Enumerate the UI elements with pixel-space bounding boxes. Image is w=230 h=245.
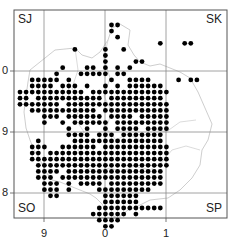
record-dot (127, 206, 132, 211)
record-dot (91, 212, 96, 217)
record-dot (134, 151, 139, 156)
record-dot (127, 151, 132, 156)
grid-lines (14, 10, 227, 218)
record-dot (54, 151, 59, 156)
record-dot (195, 78, 200, 83)
record-dot (146, 206, 151, 211)
record-dot (158, 90, 163, 95)
record-dot (140, 175, 145, 180)
record-dot (152, 181, 157, 186)
record-dot (66, 102, 71, 107)
record-dot (42, 96, 47, 101)
record-dot (48, 169, 53, 174)
record-dot (48, 114, 53, 119)
record-dot (103, 206, 108, 211)
record-dot (127, 114, 132, 119)
record-dot (85, 114, 90, 119)
record-dot (97, 206, 102, 211)
record-dot (66, 169, 71, 174)
record-dot (109, 23, 114, 28)
record-dot (36, 84, 41, 89)
record-dot (66, 163, 71, 168)
record-dot (66, 132, 71, 137)
record-dot (103, 212, 108, 217)
record-dot (30, 151, 35, 156)
record-dot (54, 193, 59, 198)
record-dot (152, 114, 157, 119)
record-dot (127, 187, 132, 192)
record-dot (127, 169, 132, 174)
record-dot (176, 78, 181, 83)
record-dot (115, 23, 120, 28)
record-dot (152, 145, 157, 150)
record-dot (42, 181, 47, 186)
record-dot (103, 145, 108, 150)
record-dot (60, 120, 65, 125)
record-dot (85, 84, 90, 89)
record-dot (134, 145, 139, 150)
record-dot (79, 145, 84, 150)
record-dot (36, 151, 41, 156)
record-dot (146, 163, 151, 168)
record-dot (140, 84, 145, 89)
record-dot (115, 200, 120, 205)
record-dot (146, 114, 151, 119)
record-dot (79, 157, 84, 162)
record-dot (164, 120, 169, 125)
record-dot (109, 163, 114, 168)
square-label-sk: SK (206, 13, 222, 25)
record-dot (121, 145, 126, 150)
record-dot (73, 175, 78, 180)
record-dot (140, 163, 145, 168)
record-dot (152, 120, 157, 125)
record-dot (103, 175, 108, 180)
record-dot (121, 47, 126, 52)
record-dot (30, 157, 35, 162)
record-dot (91, 169, 96, 174)
record-dot (103, 218, 108, 223)
record-dot (66, 181, 71, 186)
record-dot (91, 181, 96, 186)
record-dot (158, 84, 163, 89)
record-dot (103, 59, 108, 64)
record-dot (152, 139, 157, 144)
record-dot (115, 175, 120, 180)
record-dot (127, 157, 132, 162)
record-dot (91, 139, 96, 144)
record-dot (109, 108, 114, 113)
record-dot (42, 90, 47, 95)
record-dot (54, 78, 59, 83)
record-dot (164, 163, 169, 168)
record-dot (158, 169, 163, 174)
record-dot (85, 175, 90, 180)
record-dot (73, 151, 78, 156)
record-dot (42, 120, 47, 125)
record-dot (103, 102, 108, 107)
record-dot (97, 139, 102, 144)
record-dot (48, 90, 53, 95)
record-dot (146, 175, 151, 180)
record-dot (146, 126, 151, 131)
record-dot (42, 78, 47, 83)
record-dot (115, 181, 120, 186)
record-dot (60, 157, 65, 162)
record-dot (36, 102, 41, 107)
record-dot (152, 169, 157, 174)
record-dot (146, 145, 151, 150)
record-dot (115, 169, 120, 174)
record-dot (146, 90, 151, 95)
record-dot (79, 114, 84, 119)
record-dot (36, 139, 41, 144)
record-dot (140, 59, 145, 64)
record-dot (66, 157, 71, 162)
record-dot (140, 145, 145, 150)
record-dot (48, 151, 53, 156)
record-dot (127, 145, 132, 150)
record-dot (103, 47, 108, 52)
record-dot (73, 84, 78, 89)
record-dot (97, 114, 102, 119)
record-dot (30, 84, 35, 89)
record-dot (134, 206, 139, 211)
record-dot (115, 212, 120, 217)
record-dot (164, 145, 169, 150)
